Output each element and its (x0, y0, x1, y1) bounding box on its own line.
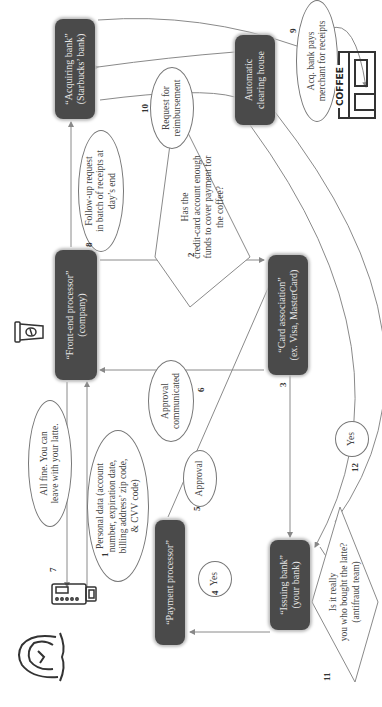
step-number-2: 2 (186, 253, 196, 258)
acq-bank-pays-line: merchant for receipts (317, 21, 329, 102)
reimbursement-line: Request for (161, 86, 173, 130)
step-number-6: 6 (196, 388, 206, 393)
front-end-processor-box: “Front-end processor” (company) (55, 250, 97, 380)
step-number-12: 12 (350, 463, 360, 472)
card-terminal-icon (50, 579, 98, 607)
acquiring-bank-box: “Acquiring bank” (Starbucks’ bank) (55, 19, 95, 119)
follow-up-line: in batch of receipts at (95, 150, 107, 232)
all-fine-line: leave with your latte. (50, 423, 62, 503)
step-number-11: 11 (322, 672, 332, 681)
issuing-bank-title: “Issuing bank” (278, 555, 290, 615)
step-number-3: 3 (278, 383, 288, 388)
personal-data-line: number, expiration date, (107, 460, 119, 552)
step-number-1: 1 (100, 553, 110, 558)
antifraud-decision: Is it really you who bought the latte? (… (322, 517, 368, 667)
clearing-house-line2: clearing house (255, 51, 267, 109)
card-association-box: “Card association” (ex. Visa, MasterCard… (268, 255, 308, 375)
approval-oval: Approval (183, 450, 217, 507)
decision-line: credit-card account enough (192, 155, 204, 258)
card-association-title: “Card association” (276, 277, 288, 352)
yes-line: Yes (209, 572, 221, 586)
decision-line: (antifraud team) (351, 561, 363, 622)
personal-data-line: billing address’ zip code, (118, 459, 130, 554)
issuing-bank-box: “Issuing bank” (your bank) (270, 540, 310, 630)
personal-data-oval: Personal data (account number, expiratio… (87, 430, 149, 582)
all-fine-oval: All fine. You can leave with your latte. (28, 400, 72, 527)
step-number-8: 8 (84, 243, 94, 248)
acquiring-bank-subtitle: (Starbucks’ bank) (75, 34, 87, 105)
coffee-shop-icon: COFFEE (335, 47, 380, 122)
decision-line: funds to cover payment for (203, 156, 215, 259)
decision-line: Is it really (328, 573, 340, 612)
decision-line: the coffee? (215, 186, 227, 228)
step-number-7: 7 (48, 568, 58, 573)
step-number-9: 9 (288, 29, 298, 34)
front-end-processor-title: “Front-end processor” (64, 270, 76, 359)
follow-up-line: Follow-up request (84, 156, 96, 225)
step-number-4: 4 (210, 591, 220, 596)
issuing-bank-subtitle: (your bank) (290, 562, 302, 609)
automatic-clearing-house-box: Automatic clearing house (235, 35, 275, 125)
acq-bank-pays-line: Acq. bank pays (306, 32, 318, 91)
decision-line: Has the (180, 193, 192, 222)
payment-flow-diagram: “Front-end processor” (company) “Acquiri… (0, 0, 382, 707)
acq-bank-pays-oval: Acq. bank pays merchant for receipts (296, 0, 338, 122)
person-icon (8, 627, 68, 687)
step-number-10: 10 (140, 104, 150, 113)
approval-communicated-line: Approval (160, 383, 172, 419)
acquiring-bank-title: “Acquiring bank” (63, 33, 75, 104)
enough-funds-decision: Has the credit-card account enough funds… (178, 112, 228, 302)
clearing-house-line1: Automatic (243, 59, 255, 101)
coffee-shop-sign: COFFEE (335, 65, 345, 108)
step-number-5: 5 (192, 507, 202, 512)
yes-oval-12: Yes (335, 421, 369, 457)
payment-processor-title: “Payment processor” (164, 540, 176, 625)
yes-line: Yes (346, 432, 358, 446)
personal-data-line: & CVV code) (130, 479, 142, 532)
approval-communicated-line: communicated (171, 373, 183, 429)
personal-data-line: Personal data (account (95, 463, 107, 549)
decision-line: you who bought the latte? (339, 543, 351, 642)
approval-communicated-oval: Approval communicated (148, 360, 194, 442)
front-end-processor-subtitle: (company) (76, 293, 88, 336)
approval-line: Approval (194, 461, 206, 497)
all-fine-line: All fine. You can (39, 431, 51, 496)
follow-up-oval: Follow-up request in batch of receipts a… (78, 130, 124, 252)
coffee-cup-icon (12, 319, 46, 345)
follow-up-line: day’s end (107, 173, 119, 209)
card-association-subtitle: (ex. Visa, MasterCard) (288, 270, 300, 361)
payment-processor-box: “Payment processor” (155, 520, 185, 645)
